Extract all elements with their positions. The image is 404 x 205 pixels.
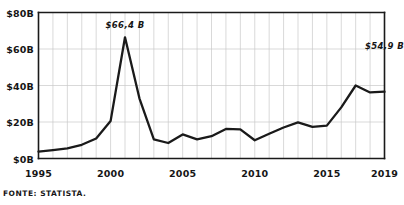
y-tick-label: $40B (0, 80, 34, 91)
y-tick-label: $0B (0, 153, 34, 164)
y-tick-label: $80B (0, 7, 34, 18)
peak-annotation: $66,4 B (105, 20, 144, 30)
x-tick-label: 2010 (241, 168, 268, 179)
x-tick-label: 2005 (169, 168, 196, 179)
x-tick-label: 2019 (371, 168, 398, 179)
x-tick-label: 2000 (97, 168, 124, 179)
end-annotation: $54,9 B (365, 41, 404, 51)
source-label: FONTE: STATISTA. (3, 189, 86, 198)
x-tick-label: 1995 (25, 168, 52, 179)
x-tick-label: 2015 (313, 168, 340, 179)
y-tick-label: $20B (0, 117, 34, 128)
y-tick-label: $60B (0, 44, 34, 55)
